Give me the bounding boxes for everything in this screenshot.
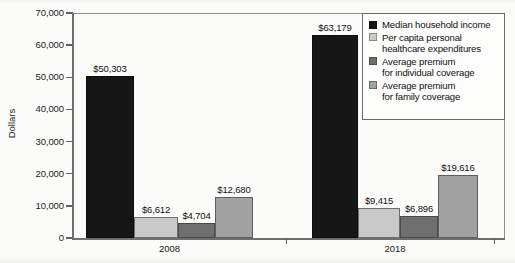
legend-label: Average premiumfor individual coverage — [382, 56, 475, 78]
y-tick-label: 0 — [12, 233, 64, 243]
y-axis-line — [72, 13, 74, 239]
legend-label: Per capita personalhealthcare expenditur… — [382, 32, 481, 54]
chart-legend: Median household incomePer capita person… — [362, 13, 505, 120]
bar — [312, 35, 358, 238]
legend-swatch — [369, 33, 377, 41]
legend-swatch — [369, 57, 377, 65]
legend-item: Median household income — [369, 19, 500, 30]
x-tick-mark — [286, 238, 287, 244]
legend-label: Median household income — [382, 19, 491, 30]
y-tick-label: 70,000 — [12, 8, 64, 18]
chart-canvas: Dollars 70,00060,00050,00040,00030,00020… — [0, 0, 515, 263]
bar — [178, 223, 215, 238]
y-tick-label: 50,000 — [12, 72, 64, 82]
x-axis-line — [72, 238, 505, 240]
bar — [438, 175, 478, 238]
x-category-label: 2018 — [355, 243, 435, 254]
y-tick-label: 30,000 — [12, 137, 64, 147]
y-axis-labels: 70,00060,00050,00040,00030,00020,00010,0… — [8, 0, 64, 263]
y-tick-label: 40,000 — [12, 104, 64, 114]
bar-value-label: $50,303 — [80, 64, 140, 74]
y-tick-label: 20,000 — [12, 169, 64, 179]
legend-item: Average premiumfor family coverage — [369, 80, 500, 102]
x-tick-mark — [494, 238, 495, 244]
bar-value-label: $63,179 — [305, 23, 365, 33]
legend-swatch — [369, 81, 377, 89]
bar — [400, 216, 438, 238]
x-category-label: 2008 — [130, 243, 210, 254]
legend-item: Average premiumfor individual coverage — [369, 56, 500, 78]
bar-value-label: $19,616 — [428, 163, 488, 173]
bar-value-label: $12,680 — [204, 185, 264, 195]
legend-item: Per capita personalhealthcare expenditur… — [369, 32, 500, 54]
scan-edge-bottom — [0, 257, 515, 263]
bar — [215, 197, 253, 238]
legend-swatch — [369, 21, 377, 29]
scan-edge-top — [0, 0, 515, 4]
y-tick-label: 10,000 — [12, 201, 64, 211]
legend-label: Average premiumfor family coverage — [382, 80, 460, 102]
y-tick-label: 60,000 — [12, 40, 64, 50]
